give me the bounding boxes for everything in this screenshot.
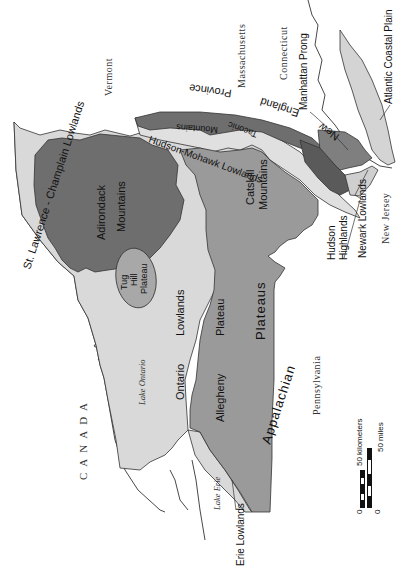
label-lake-erie: Lake Erie xyxy=(212,476,222,511)
label-connecticut: Connecticut xyxy=(278,26,289,80)
label-tug-hill-2: Hill xyxy=(129,274,139,287)
label-scale-km: 50 kilometers xyxy=(355,418,364,466)
label-pennsylvania: Pennsylvania xyxy=(311,356,322,415)
label-canada: CANADA xyxy=(77,397,89,480)
label-adirondack-1: Adirondack xyxy=(95,184,107,240)
label-ontario: Ontario xyxy=(174,364,186,400)
label-province: Province xyxy=(188,82,232,100)
label-hudson: Hudson xyxy=(326,226,337,260)
label-manhattan-prong: Manhattan Prong xyxy=(298,33,309,110)
label-tug-hill-3: Plateau xyxy=(139,263,149,294)
label-newark-lowlands: Newark Lowlands xyxy=(357,179,368,258)
label-vermont: Vermont xyxy=(103,58,114,96)
label-erie-lowlands: Erie Lowlands xyxy=(235,503,246,566)
label-lowlands: Lowlands xyxy=(174,289,186,336)
label-massachusetts: Massachusetts xyxy=(236,24,247,88)
label-scale-km-zero: 0 xyxy=(355,509,364,514)
label-adirondack-2: Mountains xyxy=(115,181,127,232)
label-scale-mi: 50 miles xyxy=(376,422,385,452)
label-plateau: Plateau xyxy=(214,299,226,336)
label-lake-ontario: Lake Ontario xyxy=(137,359,147,406)
label-allegheny: Allegheny xyxy=(214,373,226,422)
label-atlantic-coastal-plain: Atlantic Coastal Plain xyxy=(383,10,394,105)
label-new-jersey: New Jersey xyxy=(380,193,391,244)
physiographic-map: St. Lawrence - Champlain Lowlands Adiron… xyxy=(0,0,414,574)
label-plateaus: Plateaus xyxy=(253,281,268,340)
label-scale-mi-zero: 0 xyxy=(373,509,382,514)
label-england: England xyxy=(259,96,301,120)
label-tug-hill-1: Tug xyxy=(119,275,129,290)
label-highlands: Highlands xyxy=(338,216,349,260)
